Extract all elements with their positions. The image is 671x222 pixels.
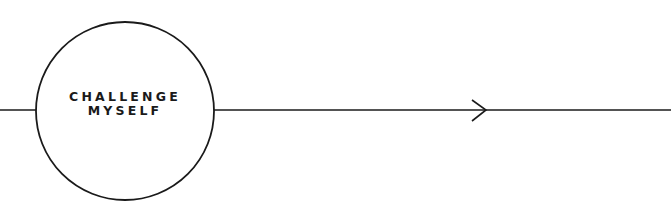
node-label: CHALLENGE MYSELF xyxy=(36,90,214,118)
flow-diagram: CHALLENGE MYSELF xyxy=(0,0,671,222)
node-label-line-2: MYSELF xyxy=(36,104,214,118)
node-label-line-1: CHALLENGE xyxy=(36,90,214,104)
